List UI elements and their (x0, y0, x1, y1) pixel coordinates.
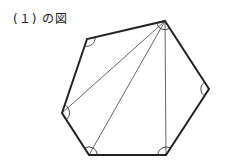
diagonals (62, 21, 166, 155)
hexagon-outline (62, 21, 209, 155)
hexagon-diagram (0, 0, 226, 162)
diagonal-to-bottom-right (165, 21, 166, 155)
diagonal-to-bottom-left (89, 21, 165, 155)
angle-mark-right (201, 82, 205, 96)
